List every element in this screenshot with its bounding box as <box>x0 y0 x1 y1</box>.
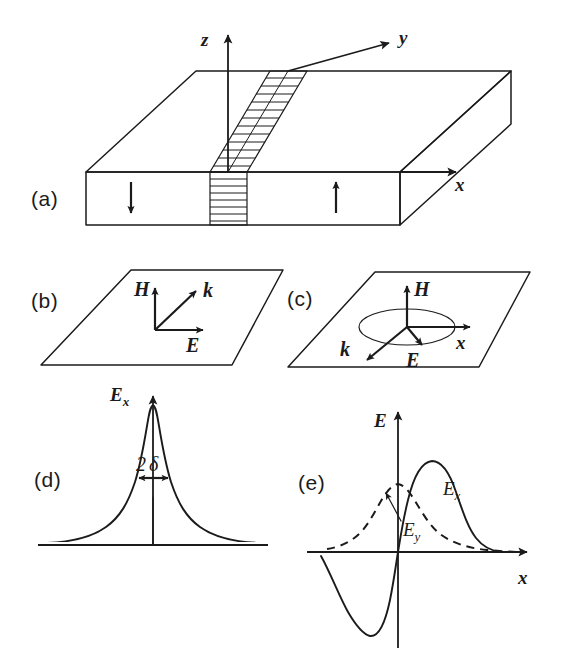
panel-d-width-label: 2δ <box>136 453 159 475</box>
domain-wall-front <box>207 172 250 225</box>
panel-e-tag: (e) <box>298 471 325 494</box>
domain-wall-top <box>205 71 315 172</box>
panel-d-y-axis-label: Ex <box>109 384 130 409</box>
panel-a: z y x (a) <box>31 27 511 225</box>
panel-e-x-axis-label: x <box>517 567 528 588</box>
panel-d-tag: (d) <box>34 468 61 491</box>
vector-k-c <box>367 327 407 360</box>
domain-wall-front-hatching <box>207 179 250 221</box>
axis-y-line <box>288 43 389 71</box>
panel-e-curve-Ex-label: Ex <box>442 478 461 503</box>
panel-e-curve-Ey-label: Ey <box>402 519 421 544</box>
vector-k-b-label: k <box>203 279 213 301</box>
panel-e-curve-Ey <box>327 484 520 552</box>
panel-e-curve-Ey-E: E <box>402 519 415 540</box>
vector-k-b <box>155 291 196 330</box>
axis-y-label: y <box>397 27 408 48</box>
slab-right-face <box>400 71 511 225</box>
panel-e-curve-Ex-sub: x <box>454 488 461 503</box>
slab-front-face <box>86 172 400 225</box>
panel-c-tag: (c) <box>287 287 313 310</box>
axis-x-label: x <box>454 174 465 195</box>
panel-d-y-axis-E: E <box>109 384 123 405</box>
panel-c: H x k E (c) <box>287 272 530 371</box>
panel-a-tag: (a) <box>31 187 58 210</box>
vector-k-c-label: k <box>340 338 350 360</box>
figure-canvas: z y x (a) H k E (b) <box>0 0 571 671</box>
panel-b-tag: (b) <box>31 289 58 312</box>
vector-E-b-label: E <box>185 334 199 356</box>
panel-e-curve-Ey-sub: y <box>413 529 421 544</box>
panel-d: Ex 2δ (d) <box>34 384 268 545</box>
panel-e: x E Ex Ey (e) <box>298 410 528 648</box>
panel-d-width-number: 2 <box>136 453 146 475</box>
axis-x-c-label: x <box>455 332 466 353</box>
vector-E-c-label: E <box>405 349 419 371</box>
panel-e-y-axis-label: E <box>373 410 387 431</box>
figure-root: z y x (a) H k E (b) <box>0 0 571 671</box>
vector-E-c <box>407 327 422 345</box>
panel-d-width-symbol: δ <box>149 453 159 475</box>
vector-H-b-label: H <box>133 278 151 300</box>
vector-H-c-label: H <box>413 278 431 300</box>
axis-z-label: z <box>200 29 209 50</box>
plane-b <box>41 270 283 365</box>
panel-d-y-axis-sub: x <box>122 394 130 409</box>
panel-b: H k E (b) <box>31 270 283 365</box>
panel-e-curve-Ex-E: E <box>442 478 455 499</box>
